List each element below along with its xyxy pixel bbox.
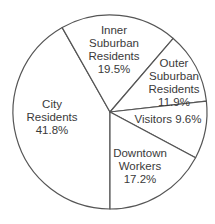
label-line: Residents (26, 111, 77, 124)
label-line: Suburban (148, 70, 199, 83)
label-inner-suburban: Inner Suburban Residents 19.5% (88, 24, 139, 76)
label-value: 17.2% (113, 173, 167, 186)
label-line: Suburban (88, 37, 139, 50)
label-downtown-workers: Downtown Workers 17.2% (113, 147, 167, 186)
label-line: Residents (148, 83, 199, 96)
label-line: Workers (113, 160, 167, 173)
label-line: Inner (88, 24, 139, 37)
label-line: Outer (148, 57, 199, 70)
label-line: Residents (88, 50, 139, 63)
label-value: 41.8% (26, 124, 77, 137)
label-outer-suburban: Outer Suburban Residents 11.9% (148, 57, 199, 109)
label-visitors: Visitors 9.6% (135, 113, 202, 126)
label-value: 11.9% (148, 96, 199, 109)
label-value: 19.5% (88, 63, 139, 76)
label-line: City (26, 98, 77, 111)
label-line: Downtown (113, 147, 167, 160)
label-line: Visitors 9.6% (135, 113, 202, 126)
label-city-residents: City Residents 41.8% (26, 98, 77, 137)
